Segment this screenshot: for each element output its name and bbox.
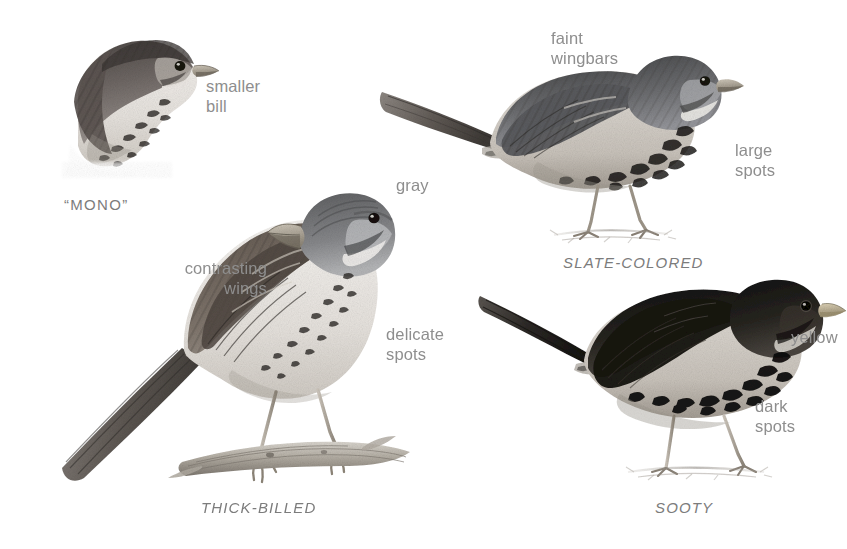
caption-thick-billed: THICK-BILLED <box>201 499 317 516</box>
annotation-large-spots: large spots <box>735 140 775 180</box>
annotation-faint-wingbars: faint wingbars <box>551 28 618 68</box>
annotation-delicate-spots: delicate spots <box>386 324 444 364</box>
annotation-smaller-bill: smaller bill <box>206 76 260 116</box>
annotation-contrasting-wings: contrasting wings <box>150 258 267 298</box>
annotation-yellow: yellow <box>791 327 838 347</box>
bird-illustration-sooty <box>478 276 828 491</box>
bird-illustration-mono <box>62 24 222 176</box>
caption-slate-colored: SLATE-COLORED <box>563 254 704 271</box>
thick-billed-artwork <box>56 170 416 490</box>
field-guide-plate: smaller bill “MONO” <box>0 0 847 549</box>
slate-colored-artwork <box>378 36 738 251</box>
bird-illustration-thick-billed <box>56 170 416 490</box>
bird-illustration-slate-colored <box>378 36 738 251</box>
sooty-artwork <box>478 276 828 491</box>
annotation-dark-spots: dark spots <box>755 396 795 436</box>
caption-mono: “MONO” <box>64 196 128 213</box>
caption-sooty: SOOTY <box>655 499 713 516</box>
mono-artwork <box>62 24 222 176</box>
annotation-gray: gray <box>396 175 429 195</box>
